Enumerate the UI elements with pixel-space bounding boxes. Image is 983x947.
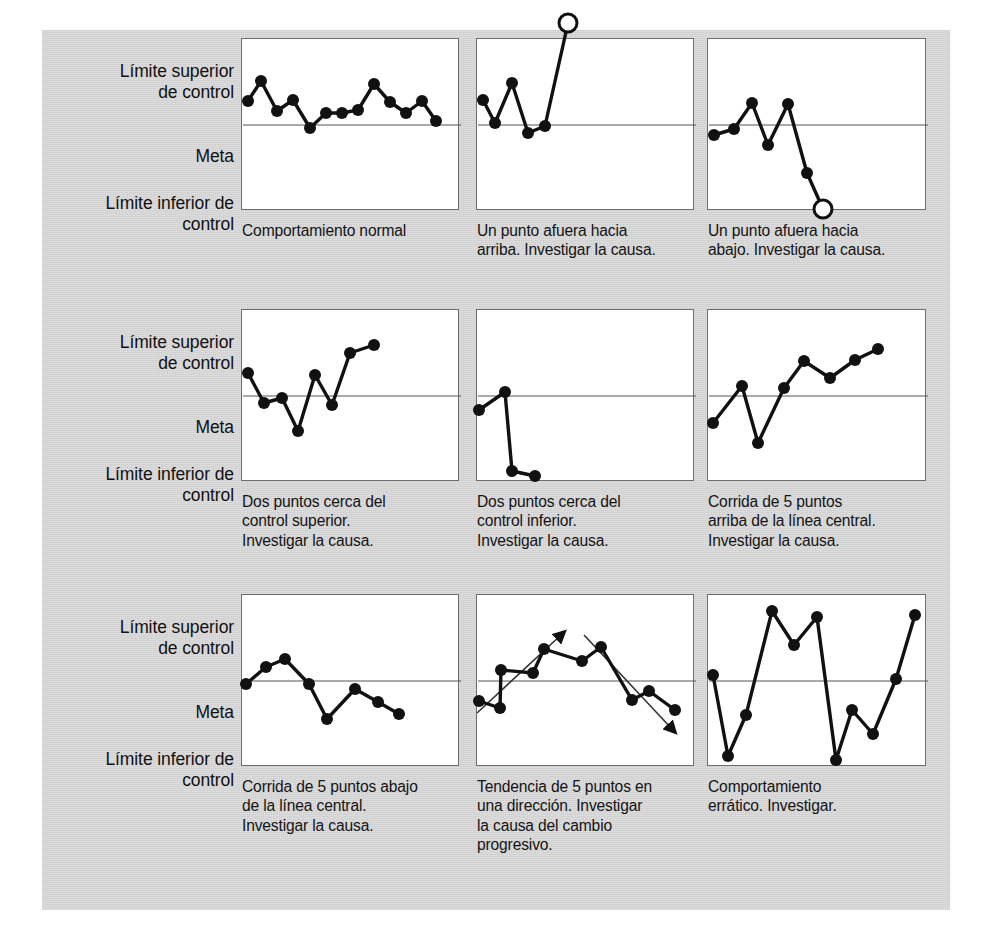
caption-line-3: la causa del cambio [477, 817, 612, 834]
chart-box-corrida-5-arriba [707, 309, 926, 481]
chart-svg-comportamiento-erratico [696, 553, 940, 809]
caption-line-2: una dirección. Investigar [477, 797, 642, 814]
caption-line-4: progresivo. [477, 836, 553, 853]
series-points [708, 97, 813, 179]
caption-line-1: Dos puntos cerca del [477, 493, 621, 510]
axis-label-upper-line1: Límite superior [120, 617, 234, 637]
chart-svg-corrida-5-arriba [696, 268, 940, 524]
series-line [248, 345, 374, 431]
chart-cell-dos-puntos-cerca-inferior: Dos puntos cerca del control inferior. I… [476, 309, 694, 481]
chart-svg-dos-puntos-cerca-inferior [465, 268, 709, 524]
chart-caption-corrida-5-abajo: Corrida de 5 puntos abajo de la línea ce… [242, 777, 470, 835]
series-line [479, 647, 675, 710]
chart-box-comportamiento-erratico [707, 594, 926, 766]
caption-line-2: de la línea central. [242, 797, 366, 814]
caption-line-2: control inferior. [477, 512, 577, 529]
chart-cell-tendencia-5-puntos: Tendencia de 5 puntos en una dirección. … [476, 594, 694, 766]
series-points [473, 641, 681, 716]
chart-svg-corrida-5-abajo [230, 553, 474, 809]
series-points [473, 386, 541, 482]
series-line [248, 81, 436, 128]
axis-label-lower-control-limit: Límite inferior de control [42, 749, 234, 791]
caption-line-2: abajo. Investigar la causa. [708, 241, 885, 258]
caption-line-3: Investigar la causa. [242, 817, 373, 834]
axis-label-lower-control-limit: Límite inferior de control [42, 193, 234, 235]
caption-line-1: Comportamiento [708, 778, 821, 795]
axis-label-lower-line1: Límite inferior de [105, 749, 234, 769]
axis-label-lower-line1: Límite inferior de [105, 464, 234, 484]
axis-label-upper-line1: Límite superior [120, 61, 234, 81]
caption-line-2: arriba. Investigar la causa. [477, 241, 656, 258]
series-line [713, 349, 878, 443]
chart-box-corrida-5-abajo [241, 594, 459, 766]
chart-svg-tendencia-5-puntos [465, 553, 709, 809]
chart-caption-punto-afuera-abajo: Un punto afuera hacia abajo. Investigar … [708, 221, 930, 260]
caption-line: Comportamiento normal [242, 222, 406, 239]
axis-label-lower-control-limit: Límite inferior de control [42, 464, 234, 506]
caption-line-1: Corrida de 5 puntos [708, 493, 842, 510]
series-line [714, 103, 823, 209]
chart-caption-punto-afuera-arriba: Un punto afuera hacia arriba. Investigar… [477, 221, 699, 260]
series-line [479, 392, 535, 476]
series-line [483, 23, 568, 133]
axis-label-upper-control-limit: Límite superior de control [42, 61, 234, 103]
chart-cell-punto-afuera-abajo: Un punto afuera hacia abajo. Investigar … [707, 38, 926, 210]
chart-cell-corrida-5-arriba: Corrida de 5 puntos arriba de la línea c… [707, 309, 926, 481]
caption-line-3: Investigar la causa. [477, 532, 608, 549]
caption-line-1: Tendencia de 5 puntos en [477, 778, 652, 795]
caption-line-2: errático. Investigar. [708, 797, 837, 814]
chart-box-dos-puntos-cerca-inferior [476, 309, 694, 481]
outlier-point-below [814, 200, 832, 218]
chart-box-comportamiento-normal [241, 38, 459, 210]
axis-label-target: Meta [42, 146, 234, 167]
chart-box-dos-puntos-cerca-superior [241, 309, 459, 481]
chart-svg-punto-afuera-arriba [465, 0, 709, 253]
trend-arrow-up-icon [477, 635, 561, 713]
axis-label-target: Meta [42, 702, 234, 723]
series-points [477, 77, 551, 139]
trend-arrow-down-icon [584, 635, 672, 729]
chart-box-punto-afuera-arriba [476, 38, 694, 210]
caption-line-2: arriba de la línea central. [708, 512, 876, 529]
series-points [707, 343, 884, 449]
axis-label-upper-line2: de control [158, 353, 234, 373]
axis-label-lower-line1: Límite inferior de [105, 193, 234, 213]
caption-line-1: Dos puntos cerca del [242, 493, 386, 510]
chart-svg-comportamiento-normal [230, 0, 474, 253]
chart-cell-corrida-5-abajo: Corrida de 5 puntos abajo de la línea ce… [241, 594, 459, 766]
chart-svg-dos-puntos-cerca-superior [230, 268, 474, 524]
axis-label-upper-control-limit: Límite superior de control [42, 617, 234, 659]
axis-label-upper-line2: de control [158, 638, 234, 658]
series-points [242, 339, 380, 437]
axis-label-upper-line2: de control [158, 82, 234, 102]
series-points [242, 75, 442, 134]
axis-label-lower-line2: control [182, 214, 234, 234]
chart-caption-corrida-5-arriba: Corrida de 5 puntos arriba de la línea c… [708, 492, 936, 550]
axis-label-lower-line2: control [182, 485, 234, 505]
axis-label-upper-line1: Límite superior [120, 332, 234, 352]
series-points [240, 653, 405, 725]
axis-label-lower-line2: control [182, 770, 234, 790]
caption-line-1: Corrida de 5 puntos abajo [242, 778, 418, 795]
caption-line-3: Investigar la causa. [242, 532, 373, 549]
chart-svg-punto-afuera-abajo [696, 0, 940, 253]
caption-line-1: Un punto afuera hacia [477, 222, 627, 239]
axis-label-target: Meta [42, 417, 234, 438]
chart-cell-dos-puntos-cerca-superior: Dos puntos cerca del control superior. I… [241, 309, 459, 481]
chart-caption-tendencia-5-puntos: Tendencia de 5 puntos en una dirección. … [477, 777, 699, 855]
series-line [246, 659, 399, 719]
chart-cell-comportamiento-normal: Comportamiento normal [241, 38, 459, 210]
caption-line-1: Un punto afuera hacia [708, 222, 858, 239]
series-line [713, 611, 915, 760]
caption-line-3: Investigar la causa. [708, 532, 839, 549]
chart-cell-punto-afuera-arriba: Un punto afuera hacia arriba. Investigar… [476, 38, 694, 210]
axis-label-upper-control-limit: Límite superior de control [42, 332, 234, 374]
chart-caption-comportamiento-erratico: Comportamiento errático. Investigar. [708, 777, 936, 816]
figure-panel: Límite superior de control Meta Límite i… [42, 30, 950, 910]
series-points [707, 605, 921, 766]
chart-caption-comportamiento-normal: Comportamiento normal [242, 221, 470, 240]
chart-box-punto-afuera-abajo [707, 38, 926, 210]
caption-line-2: control superior. [242, 512, 350, 529]
chart-caption-dos-puntos-cerca-inferior: Dos puntos cerca del control inferior. I… [477, 492, 699, 550]
chart-box-tendencia-5-puntos [476, 594, 694, 766]
